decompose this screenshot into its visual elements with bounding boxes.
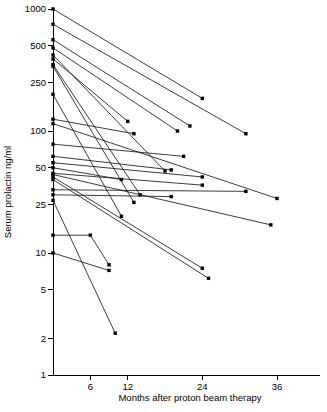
series-patient-24 — [51, 251, 110, 272]
data-point-marker — [132, 132, 135, 135]
data-point-marker — [89, 233, 92, 236]
x-axis-title: Months after proton beam therapy — [118, 392, 261, 403]
series-path — [53, 55, 165, 171]
data-point-marker — [51, 178, 54, 181]
x-axis: 6122436 — [53, 375, 320, 392]
y-tick-label: 250 — [30, 77, 46, 88]
data-point-marker — [170, 195, 173, 198]
data-point-marker — [51, 64, 54, 67]
series-patient-10 — [51, 117, 135, 135]
data-point-marker — [51, 7, 54, 10]
data-point-marker — [201, 97, 204, 100]
data-point-marker — [244, 190, 247, 193]
data-point-marker — [51, 23, 54, 26]
x-tick-label: 6 — [88, 381, 93, 392]
data-point-marker — [51, 53, 54, 56]
data-point-marker — [201, 267, 204, 270]
data-point-marker — [182, 155, 185, 158]
data-point-marker — [269, 223, 272, 226]
y-tick-label: 1 — [41, 369, 46, 380]
series-path — [53, 24, 246, 133]
data-series-group — [51, 7, 278, 335]
series-path — [53, 253, 109, 270]
serum-prolactin-chart: 1251025501002505001000 6122436 Months af… — [0, 0, 327, 412]
data-point-marker — [51, 57, 54, 60]
y-axis-ticks: 1251025501002505001000 — [25, 3, 53, 380]
series-patient-20 — [51, 188, 247, 193]
y-tick-label: 25 — [35, 199, 46, 210]
data-point-marker — [107, 263, 110, 266]
y-axis: 1251025501002505001000 — [25, 3, 53, 380]
data-point-marker — [51, 46, 54, 49]
x-tick-label: 36 — [272, 381, 283, 392]
y-tick-label: 100 — [30, 125, 46, 136]
series-path — [53, 48, 177, 131]
data-point-marker — [176, 129, 179, 132]
series-patient-21 — [51, 193, 173, 198]
series-path — [53, 144, 184, 156]
data-point-marker — [126, 120, 129, 123]
series-patient-22 — [51, 199, 117, 335]
data-point-marker — [51, 233, 54, 236]
series-path — [53, 195, 171, 197]
x-tick-label: 24 — [197, 381, 208, 392]
data-point-marker — [51, 161, 54, 164]
y-tick-label: 50 — [35, 162, 46, 173]
data-point-marker — [51, 188, 54, 191]
data-point-marker — [114, 332, 117, 335]
series-patient-18 — [51, 175, 204, 270]
data-point-marker — [207, 277, 210, 280]
data-point-marker — [51, 155, 54, 158]
series-patient-09 — [51, 93, 123, 218]
data-point-marker — [170, 168, 173, 171]
data-point-marker — [51, 142, 54, 145]
data-point-marker — [201, 175, 204, 178]
data-point-marker — [201, 183, 204, 186]
data-point-marker — [51, 199, 54, 202]
series-patient-06 — [51, 57, 129, 123]
y-tick-label: 1000 — [25, 3, 46, 14]
data-point-marker — [132, 201, 135, 204]
data-point-marker — [51, 93, 54, 96]
y-tick-label: 500 — [30, 40, 46, 51]
data-point-marker — [51, 38, 54, 41]
data-point-marker — [51, 166, 54, 169]
series-path — [53, 40, 190, 126]
data-point-marker — [51, 193, 54, 196]
series-path — [53, 66, 134, 202]
data-point-marker — [107, 269, 110, 272]
y-tick-label: 2 — [41, 333, 46, 344]
series-path — [53, 124, 277, 199]
series-patient-19 — [51, 178, 210, 280]
data-point-marker — [163, 169, 166, 172]
data-point-marker — [244, 132, 247, 135]
series-patient-12 — [51, 142, 185, 158]
series-path — [53, 156, 171, 170]
x-tick-label: 12 — [122, 381, 133, 392]
chart-canvas: 1251025501002505001000 6122436 Months af… — [0, 0, 327, 412]
series-patient-02 — [51, 23, 247, 136]
data-point-marker — [120, 215, 123, 218]
y-tick-label: 10 — [35, 247, 46, 258]
series-path — [53, 190, 246, 192]
data-point-marker — [188, 124, 191, 127]
data-point-marker — [51, 251, 54, 254]
y-tick-label: 5 — [41, 284, 46, 295]
series-patient-08 — [51, 64, 135, 204]
x-axis-ticks: 6122436 — [88, 375, 283, 392]
y-axis-title: Serum prolactin ng/ml — [2, 146, 13, 238]
series-patient-05 — [51, 53, 166, 172]
series-path — [53, 180, 209, 279]
data-point-marker — [275, 197, 278, 200]
series-path — [53, 200, 115, 333]
data-point-marker — [51, 122, 54, 125]
data-point-marker — [51, 117, 54, 120]
series-patient-01 — [51, 7, 204, 100]
series-patient-03 — [51, 38, 191, 128]
